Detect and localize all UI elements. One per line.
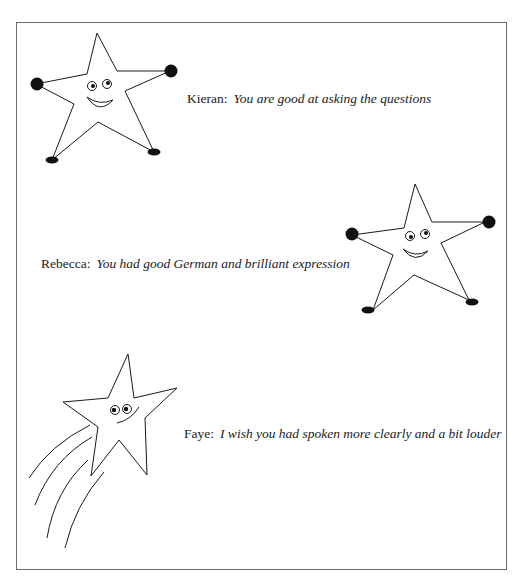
comment-kieran: Kieran:You are good at asking the questi… [187, 92, 431, 106]
comment-text: I wish you had spoken more clearly and a… [220, 426, 501, 441]
comment-faye: Faye:I wish you had spoken more clearly … [184, 427, 501, 441]
comment-text: You had good German and brilliant expres… [96, 256, 349, 271]
illustrations [0, 0, 529, 588]
commenter-name: Faye: [184, 426, 214, 441]
comment-rebecca: Rebecca:You had good German and brillian… [41, 257, 350, 271]
shooting-star-icon [29, 354, 177, 548]
comment-text: You are good at asking the questions [233, 91, 431, 106]
commenter-name: Kieran: [187, 91, 227, 106]
waving-star-icon [346, 184, 496, 314]
commenter-name: Rebecca: [41, 256, 90, 271]
tail-streak [29, 425, 90, 478]
waving-star-icon [31, 33, 178, 164]
